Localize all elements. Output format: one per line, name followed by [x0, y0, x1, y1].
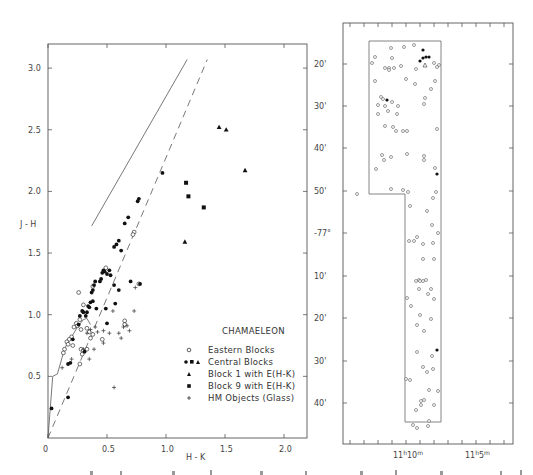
point-plus [133, 286, 137, 290]
map-source-open [433, 404, 436, 407]
map-source-open [400, 65, 403, 68]
point-open-circle [78, 318, 82, 322]
legend-item-block9: Block 9 with E(H-K) [208, 381, 295, 391]
point-open-circle [63, 347, 67, 351]
map-source-open [407, 191, 410, 194]
filled-circle-icon [184, 360, 188, 364]
map-source-open [428, 420, 431, 423]
point-filled-circle [66, 395, 70, 399]
point-square [184, 181, 188, 185]
map-source-open [377, 113, 380, 116]
point-filled-circle [129, 280, 133, 284]
point-open-circle [61, 351, 65, 355]
point-open-circle [72, 325, 76, 329]
map-source-open [416, 324, 419, 327]
map-source-open [409, 205, 412, 208]
map-source-open [423, 330, 426, 333]
point-filled-circle [107, 268, 111, 272]
map-source-open [391, 57, 394, 60]
x-axis-label: H - K [186, 453, 206, 462]
map-source-open [384, 105, 387, 108]
figure-caption-cutoff [20, 468, 530, 475]
map-source-open [430, 288, 433, 291]
map-source-open [405, 378, 408, 381]
map-source-open [383, 159, 386, 162]
ra-label-11h5m: 11h5m [465, 449, 490, 460]
map-source-open [374, 56, 377, 59]
reference-line [48, 60, 207, 439]
x-tick-label: 1.5 [220, 445, 233, 454]
map-source-open [432, 197, 435, 200]
plus-icon [187, 396, 191, 400]
point-filled-circle [137, 197, 141, 201]
map-source-open [371, 62, 374, 65]
map-source-open [416, 351, 419, 354]
map-source-open [434, 80, 437, 83]
point-plus [92, 347, 96, 351]
point-filled-circle [115, 243, 119, 247]
reference-lines [48, 60, 207, 439]
map-source-open [423, 159, 426, 162]
sky-map: 20'30'40'50'-77°10'20'30'40' 11h10m 11h5… [314, 23, 513, 460]
point-open-circle [85, 326, 89, 330]
data-points [50, 125, 248, 411]
map-source-open [420, 404, 423, 407]
map-source-open [384, 125, 387, 128]
map-source-open [423, 155, 426, 158]
dec-tick-label: 40' [314, 399, 326, 408]
map-source-filled [385, 98, 388, 101]
map-source-open [434, 167, 437, 170]
dec-tick-label: 40' [314, 144, 326, 153]
map-source-open [419, 280, 422, 283]
legend-item-block1: Block 1 with E(H-K) [208, 369, 295, 379]
map-source-open [395, 130, 398, 133]
point-filled-circle [109, 273, 113, 277]
legend: CHAMAELEON Eastern Blocks Central Blocks… [184, 326, 295, 403]
map-source-open [425, 279, 428, 282]
map-source-open [405, 78, 408, 81]
map-source-open [410, 305, 413, 308]
dec-tick-label: -77° [314, 229, 331, 238]
y-tick-label: 1.5 [28, 249, 41, 258]
map-source-open [391, 101, 394, 104]
point-filled-circle [66, 362, 70, 366]
point-filled-circle [87, 305, 91, 309]
map-source-open [408, 240, 411, 243]
map-frame [343, 23, 513, 444]
point-filled-circle [92, 283, 96, 287]
map-source-open [414, 83, 417, 86]
map-source-open [406, 130, 409, 133]
map-source-open [427, 425, 430, 428]
point-filled-circle [99, 277, 103, 281]
map-source-open [430, 318, 433, 321]
open-circle-icon [187, 348, 191, 352]
map-source-open [428, 389, 431, 392]
map-source-open [381, 154, 384, 157]
map-source-open [415, 68, 418, 71]
point-plus [101, 329, 105, 333]
point-plus [111, 309, 115, 313]
point-filled-circle [77, 323, 81, 327]
map-source-open [436, 128, 439, 131]
map-source-triangle [423, 63, 427, 67]
y-tick-label: 0.5 [28, 372, 41, 381]
point-filled-circle [85, 310, 89, 314]
dec-tick-label: 30' [314, 102, 326, 111]
map-ra-labels: 11h10m 11h5m [393, 449, 490, 460]
map-source-open [432, 368, 435, 371]
map-source-open [388, 69, 391, 72]
filled-triangle-icon [196, 360, 200, 364]
map-source-open [424, 97, 427, 100]
map-source-open [382, 98, 385, 101]
map-source-open [436, 66, 439, 69]
map-source-open [413, 240, 416, 243]
map-ticks [343, 23, 513, 444]
point-plus [127, 329, 131, 333]
map-source-open [390, 156, 393, 159]
map-source-open [435, 191, 438, 194]
point-open-circle [79, 328, 83, 332]
map-source-open [433, 258, 436, 261]
x-tick-label: 2.0 [279, 445, 292, 454]
dec-tick-label: 30' [314, 357, 326, 366]
dec-tick-label: 20' [314, 314, 326, 323]
